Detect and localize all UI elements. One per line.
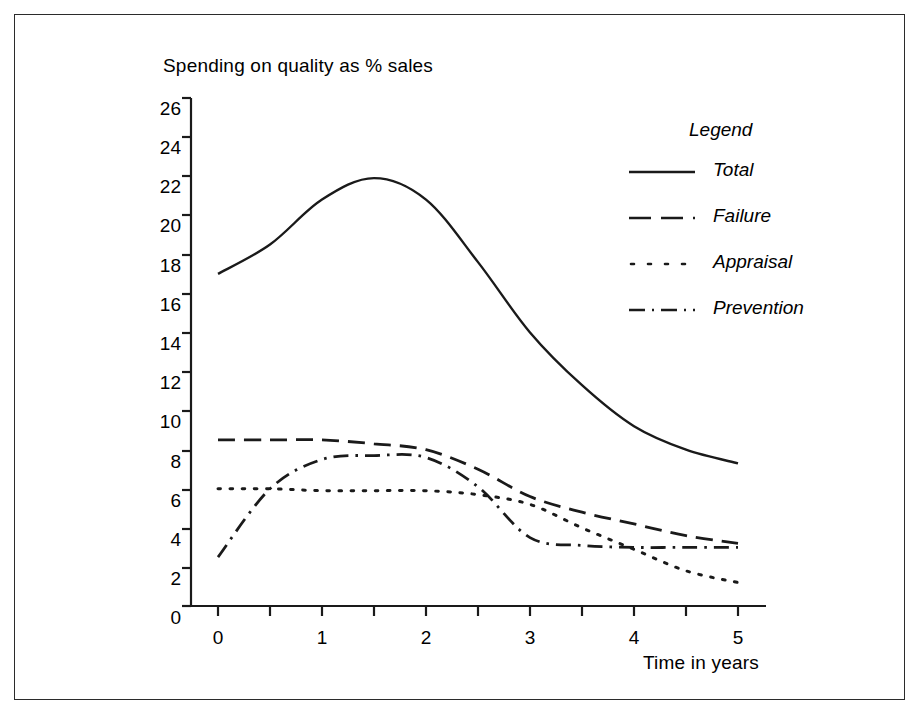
x-tick-label-1: 1 [310, 627, 334, 649]
y-tick-label-20: 20 [147, 215, 181, 237]
x-tick-label-3: 3 [518, 627, 542, 649]
legend-label-total: Total [713, 159, 754, 181]
y-tick-label-16: 16 [147, 294, 181, 316]
y-tick-label-10: 10 [147, 411, 181, 433]
x-tick-label-2: 2 [414, 627, 438, 649]
y-tick-label-6: 6 [147, 490, 181, 512]
y-tick-label-2: 2 [147, 568, 181, 590]
y-tick-label-18: 18 [147, 255, 181, 277]
y-tick-label-0: 0 [147, 607, 181, 629]
legend-title: Legend [689, 119, 752, 141]
y-axis-ticks [182, 98, 191, 606]
legend-label-appraisal: Appraisal [713, 251, 792, 273]
series-line-failure [218, 440, 738, 544]
solid-line-swatch [627, 170, 697, 174]
x-axis-label: Time in years [643, 652, 759, 674]
y-tick-label-4: 4 [147, 529, 181, 551]
x-tick-label-0: 0 [206, 627, 230, 649]
figure-frame: Spending on quality as % sales Time in y… [14, 14, 905, 700]
dashed-line-swatch [627, 216, 697, 220]
x-tick-label-4: 4 [622, 627, 646, 649]
series-line-appraisal [218, 489, 738, 583]
y-tick-label-22: 22 [147, 176, 181, 198]
x-axis-ticks [218, 606, 738, 616]
y-tick-label-24: 24 [147, 137, 181, 159]
legend-label-failure: Failure [713, 205, 771, 227]
chart-title: Spending on quality as % sales [163, 55, 433, 77]
y-tick-label-14: 14 [147, 333, 181, 355]
dashdot-line-swatch [627, 308, 697, 312]
y-tick-label-8: 8 [147, 451, 181, 473]
data-series-layer [218, 178, 738, 582]
y-tick-label-26: 26 [147, 98, 181, 120]
x-tick-label-5: 5 [726, 627, 750, 649]
chart-plot-area: Spending on quality as % sales Time in y… [15, 15, 906, 701]
legend-label-prevention: Prevention [713, 297, 804, 319]
dotted-line-swatch [627, 262, 697, 266]
series-line-total [218, 178, 738, 463]
y-tick-label-12: 12 [147, 372, 181, 394]
